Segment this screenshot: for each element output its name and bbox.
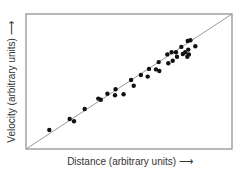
data-point xyxy=(129,78,133,82)
data-point xyxy=(121,92,125,96)
data-point xyxy=(179,45,183,49)
data-point xyxy=(165,52,169,56)
data-point xyxy=(166,61,170,65)
data-point xyxy=(193,44,197,48)
data-point xyxy=(99,98,103,102)
data-point xyxy=(72,119,76,123)
data-point xyxy=(47,128,51,132)
scatter-chart xyxy=(0,0,246,178)
data-point xyxy=(68,117,72,121)
data-point xyxy=(132,84,136,88)
data-point xyxy=(83,107,87,111)
data-point xyxy=(174,50,178,54)
data-point xyxy=(157,69,161,73)
x-axis-label-text: Distance (arbitrary units) ⟶ xyxy=(67,156,193,167)
data-point xyxy=(169,50,173,54)
data-point xyxy=(175,55,179,59)
data-point xyxy=(157,60,161,64)
data-point xyxy=(113,87,117,91)
x-axis-label: Distance (arbitrary units) ⟶ xyxy=(0,156,246,167)
data-point xyxy=(188,38,192,42)
data-point xyxy=(171,59,175,63)
data-point xyxy=(147,67,151,71)
data-point xyxy=(186,47,190,51)
data-point xyxy=(187,52,191,56)
data-point xyxy=(113,93,117,97)
data-point xyxy=(105,92,109,96)
y-axis-label: Velocity (arbitrary units) ⟶ xyxy=(6,12,17,152)
data-point xyxy=(146,74,150,78)
data-point xyxy=(139,73,143,77)
